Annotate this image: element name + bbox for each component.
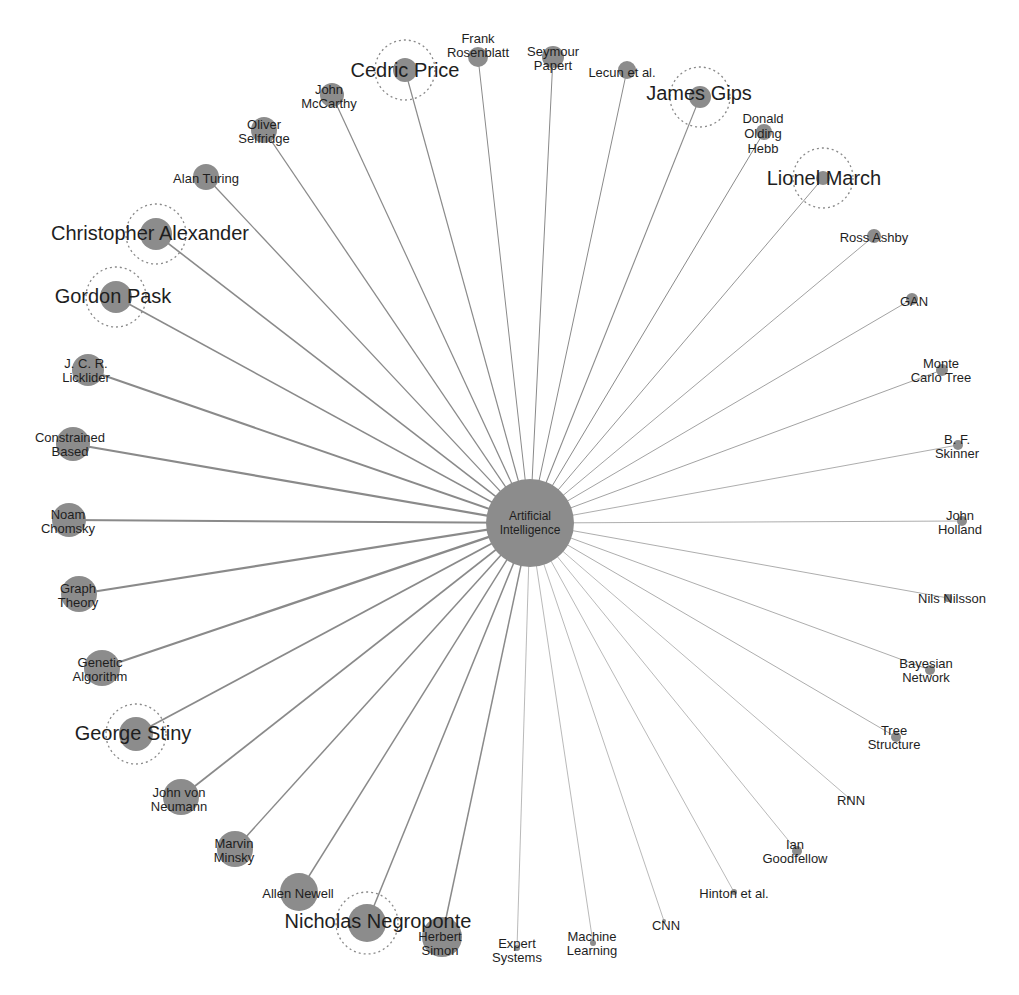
node-label-cnn: CNN [652, 918, 680, 933]
label-line: John [946, 507, 974, 522]
edge-ai-noam-chomsky [69, 520, 530, 523]
label-line: Carlo Tree [911, 370, 972, 385]
edge-ai-oliver-selfridge [264, 130, 530, 523]
node-label-lionel-march: Lionel March [767, 167, 882, 189]
edge-ai-gordon-pask [116, 297, 530, 523]
node-label-nils-nilsson: Nils Nilsson [918, 591, 986, 606]
edge-ai-christopher-alexander [156, 234, 530, 523]
edge-ai-jcr-licklider [88, 370, 530, 523]
node-label-john-von-neumann: John vonNeumann [151, 784, 207, 814]
label-line: Rosenblatt [447, 45, 510, 60]
node-label-gan: GAN [900, 294, 928, 309]
edge-ai-frank-rosenblatt [478, 57, 530, 523]
node-label-herbert-simon: HerbertSimon [418, 928, 462, 958]
label-line: Licklider [62, 370, 110, 385]
label-line: Frank [461, 30, 495, 45]
edge-ai-alan-turing [206, 177, 530, 523]
node-label-seymour-papert: SeymourPapert [527, 43, 580, 73]
label-line: Alan Turing [173, 171, 239, 186]
label-line: Systems [492, 950, 542, 965]
node-label-cedric-price: Cedric Price [351, 59, 460, 81]
label-line: Network [902, 670, 950, 685]
label-line: Bayesian [899, 655, 952, 670]
label-line: Nils Nilsson [918, 591, 986, 606]
label-line: GAN [900, 294, 928, 309]
node-label-hinton-et-al: Hinton et al. [699, 886, 768, 901]
label-line: Machine [567, 928, 616, 943]
node-label-john-holland: JohnHolland [938, 507, 982, 537]
label-line: Ross Ashby [840, 230, 909, 245]
label-line: John von [153, 784, 206, 799]
label-line: Genetic [78, 654, 123, 669]
label-line: Hinton et al. [699, 886, 768, 901]
edge-ai-genetic-algorithm [102, 523, 530, 668]
label-line: Neumann [151, 799, 207, 814]
node-label-machine-learning: MachineLearning [567, 928, 618, 958]
network-diagram: ArtificialIntelligenceFrankRosenblattSey… [0, 0, 1019, 995]
label-line: Selfridge [238, 131, 289, 146]
edge-ai-hinton-et-al [530, 523, 734, 892]
edge-ai-james-gips [530, 97, 700, 523]
label-line: James Gips [646, 82, 752, 104]
label-line: Theory [58, 595, 99, 610]
node-label-marvin-minsky: MarvinMinsky [214, 835, 255, 865]
edge-ai-ross-ashby [530, 236, 874, 523]
label-line: Lecun et al. [588, 65, 655, 80]
edge-ai-lionel-march [530, 178, 823, 523]
edge-ai-nils-nilsson [530, 523, 948, 598]
label-line: Based [52, 444, 89, 459]
edge-ai-tree-structure [530, 523, 896, 737]
node-label-james-gips: James Gips [646, 82, 752, 104]
node-label-genetic-algorithm: GeneticAlgorithm [73, 654, 128, 684]
label-line: Intelligence [500, 523, 561, 537]
node-label-allen-newell: Allen Newell [262, 886, 334, 901]
label-line: Noam [51, 506, 86, 521]
node-label-christopher-alexander: Christopher Alexander [51, 222, 249, 244]
label-line: Artificial [509, 509, 551, 523]
label-line: J. C. R. [64, 355, 107, 370]
node-label-tree-structure: TreeStructure [868, 722, 921, 752]
label-line: CNN [652, 918, 680, 933]
label-line: Structure [868, 737, 921, 752]
node-label-rnn: RNN [837, 793, 865, 808]
edge-ai-nicholas-negroponte [367, 523, 530, 923]
node-label-george-stiny: George Stiny [75, 722, 192, 744]
node-label-ross-ashby: Ross Ashby [840, 230, 909, 245]
label-line: Donald [742, 111, 783, 126]
label-line: Monte [923, 355, 959, 370]
label-line: Constrained [35, 429, 105, 444]
edge-ai-allen-newell [299, 523, 530, 892]
label-line: Marvin [214, 835, 253, 850]
label-line: Goodfellow [762, 851, 828, 866]
edge-ai-seymour-papert [530, 57, 553, 523]
label-line: RNN [837, 793, 865, 808]
label-line: Skinner [935, 446, 980, 461]
label-line: Olding [744, 126, 782, 141]
label-line: Ian [786, 836, 804, 851]
network-graph-canvas: ArtificialIntelligenceFrankRosenblattSey… [0, 0, 1019, 995]
label-line: Graph [60, 580, 96, 595]
node-label-lecun-et-al: Lecun et al. [588, 65, 655, 80]
label-line: Hebb [747, 140, 778, 155]
label-line: Christopher Alexander [51, 222, 249, 244]
node-label-bayesian-network: BayesianNetwork [899, 655, 952, 685]
node-label-monte-carlo-tree: MonteCarlo Tree [911, 355, 972, 385]
label-line: Gordon Pask [55, 285, 173, 307]
edge-ai-john-holland [530, 521, 962, 523]
edge-ai-cnn [530, 523, 664, 921]
edge-ai-constrained-based [73, 444, 530, 523]
edge-ai-cedric-price [405, 70, 530, 523]
edge-ai-monte-carlo-tree [530, 370, 942, 523]
node-label-john-mccarthy: JohnMcCarthy [301, 81, 357, 111]
edge-ai-lecun-et-al [530, 70, 627, 523]
label-line: Chomsky [41, 521, 96, 536]
label-line: Herbert [418, 928, 462, 943]
label-line: Lionel March [767, 167, 882, 189]
label-line: Papert [534, 58, 573, 73]
node-label-donald-olding-hebb: DonaldOldingHebb [742, 111, 783, 155]
edge-ai-herbert-simon [442, 523, 530, 937]
node-label-gordon-pask: Gordon Pask [55, 285, 173, 307]
label-line: Seymour [527, 43, 580, 58]
edge-ai-donald-olding-hebb [530, 132, 764, 523]
edge-ai-machine-learning [530, 523, 593, 943]
